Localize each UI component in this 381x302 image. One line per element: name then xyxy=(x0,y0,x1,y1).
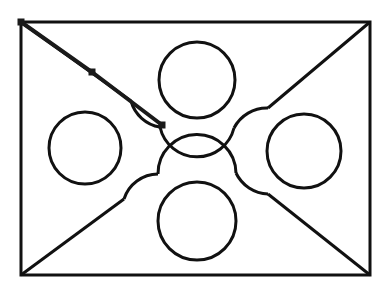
star-arc-bottom-center[interactable] xyxy=(158,134,236,174)
diagonal-top-right[interactable] xyxy=(268,22,370,108)
star-arc-top-right[interactable] xyxy=(234,108,268,128)
handle-start[interactable] xyxy=(18,19,25,26)
circle-right[interactable] xyxy=(267,114,341,188)
handle-end[interactable] xyxy=(159,122,166,129)
diagonal-bottom-right[interactable] xyxy=(268,194,370,275)
star-arc-bottom-right[interactable] xyxy=(236,173,268,194)
diagonal-bottom-left[interactable] xyxy=(21,199,124,275)
circle-bottom[interactable] xyxy=(158,182,236,260)
circle-left[interactable] xyxy=(49,112,121,184)
vector-drawing[interactable] xyxy=(0,0,381,302)
star-arc-bottom-left[interactable] xyxy=(124,174,158,199)
handle-mid[interactable] xyxy=(89,69,96,76)
drawing-canvas[interactable] xyxy=(0,0,381,302)
star-arc-top-center[interactable] xyxy=(160,127,234,157)
circle-top[interactable] xyxy=(159,42,235,118)
